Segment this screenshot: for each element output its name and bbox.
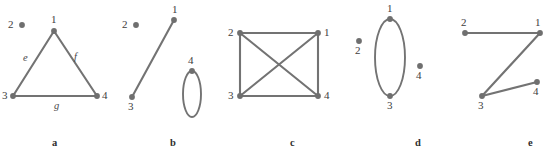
vertex-label-2: 2 (461, 17, 467, 28)
vertex-label-4: 4 (533, 86, 539, 97)
vertex-dot-1 (315, 30, 321, 36)
vertex-dot-2 (462, 30, 468, 36)
vertex-label-3: 3 (387, 100, 393, 111)
loop-edge-4 (183, 71, 201, 117)
vertex-label-2: 2 (355, 45, 361, 56)
edge-label-f: f (74, 52, 77, 63)
vertex-dot-2 (19, 22, 25, 28)
edge-1-3 (13, 31, 54, 96)
edge-1-3 (132, 20, 174, 97)
vertex-label-2: 2 (228, 27, 234, 38)
vertex-label-3: 3 (128, 101, 134, 112)
vertex-label-1: 1 (51, 14, 57, 25)
edge-1-4 (54, 31, 97, 96)
vertex-label-4: 4 (324, 90, 330, 101)
edge-label-e: e (23, 53, 28, 64)
graph-panel-d (356, 16, 423, 99)
vertex-label-1: 1 (172, 4, 178, 15)
panel-caption-c: c (290, 138, 295, 149)
vertex-dot-1 (537, 30, 543, 36)
vertex-label-3: 3 (2, 90, 8, 101)
edge-1-3 (482, 33, 540, 96)
edge-3-4 (482, 82, 537, 96)
panel-caption-a: a (52, 138, 57, 149)
panel-caption-b: b (170, 138, 176, 149)
vertex-dot-3 (237, 93, 243, 99)
graph-panel-e (462, 30, 543, 99)
vertex-dot-3 (10, 93, 16, 99)
vertex-label-4: 4 (188, 55, 194, 66)
vertex-label-1: 1 (535, 17, 541, 28)
vertex-label-2: 2 (8, 19, 14, 30)
vertex-label-4: 4 (416, 70, 422, 81)
vertex-label-4: 4 (102, 90, 108, 101)
edge-label-g: g (54, 101, 59, 112)
loop-edge-1 (375, 19, 405, 96)
vertex-dot-2 (237, 30, 243, 36)
panel-caption-d: d (415, 138, 421, 149)
panel-caption-e: e (528, 138, 533, 149)
graph-panel-c (237, 30, 321, 99)
vertex-dot-1 (387, 16, 393, 22)
vertex-label-3: 3 (478, 100, 484, 111)
vertex-dot-4 (94, 93, 100, 99)
vertex-label-1: 1 (387, 3, 393, 14)
vertex-label-3: 3 (228, 90, 234, 101)
vertex-dot-4 (315, 93, 321, 99)
vertex-dot-1 (171, 17, 177, 23)
vertex-dot-4 (189, 68, 195, 74)
vertex-label-2: 2 (122, 19, 128, 30)
vertex-dot-1 (51, 28, 57, 34)
vertex-label-1: 1 (324, 27, 330, 38)
graph-figure: 1234efga1234b1234c1234d1234e (0, 0, 548, 155)
vertex-dot-2 (133, 22, 139, 28)
graph-panel-b (129, 17, 201, 117)
